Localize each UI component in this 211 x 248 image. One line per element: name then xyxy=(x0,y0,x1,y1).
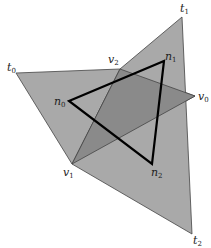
label-n2: n2 xyxy=(151,167,163,180)
label-v0: v0 xyxy=(198,91,209,104)
label-t0: t0 xyxy=(7,62,16,75)
label-v2: v2 xyxy=(108,54,119,67)
label-subscript: 0 xyxy=(61,101,65,109)
label-subscript: 1 xyxy=(184,8,188,16)
label-subscript: 2 xyxy=(114,59,118,67)
label-subscript: 0 xyxy=(204,96,208,104)
label-t2: t2 xyxy=(193,235,202,248)
label-subscript: 1 xyxy=(69,172,73,180)
label-n1: n1 xyxy=(165,51,177,64)
label-subscript: 2 xyxy=(158,172,162,180)
diagram-canvas xyxy=(0,0,211,248)
label-subscript: 1 xyxy=(172,56,176,64)
label-t1: t1 xyxy=(180,3,189,16)
label-n0: n0 xyxy=(54,96,66,109)
label-subscript: 2 xyxy=(197,240,201,248)
label-v1: v1 xyxy=(63,167,74,180)
label-subscript: 0 xyxy=(11,67,15,75)
